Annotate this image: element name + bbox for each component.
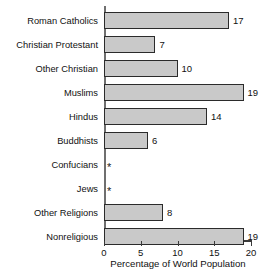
category-label: Roman Catholics [0,16,98,26]
bar-hindus [104,108,207,125]
bar-nonreligious [104,228,244,245]
x-tick-label: 10 [172,247,183,258]
bar-value-label: 7 [160,40,165,50]
x-tick-label: 15 [209,247,220,258]
x-tick [141,241,142,246]
x-tick [251,241,252,246]
category-label: Buddhists [0,136,98,146]
x-tick [178,241,179,246]
x-tick [104,241,105,246]
x-axis-title: Percentage of World Population [104,258,252,269]
category-label: Christian Protestant [0,40,98,50]
plot-area: * * 17 7 10 19 14 6 8 19 0 5 10 15 20 [104,6,251,240]
bar-value-label: 17 [233,16,244,26]
bar-value-label: 6 [152,136,157,146]
category-label: Nonreligious [0,232,98,242]
bar-value-label: 19 [248,88,259,98]
bar-other-christian [104,60,178,77]
category-label: Confucians [0,160,98,170]
category-label: Other Christian [0,64,98,74]
category-label: Hindus [0,112,98,122]
bar-roman-catholics [104,12,229,29]
bar-other-religions [104,204,163,221]
category-label: Jews [0,184,98,194]
bar-christian-protestant [104,36,155,53]
asterisk-marker-jews: * [107,186,111,196]
bar-value-label: 19 [248,232,259,242]
bar-value-label: 14 [211,112,222,122]
x-tick [214,241,215,246]
x-tick-label: 0 [101,247,106,258]
bar-muslims [104,84,244,101]
x-tick-label: 5 [138,247,143,258]
category-label: Other Religions [0,208,98,218]
bar-value-label: 8 [167,208,172,218]
category-label: Muslims [0,88,98,98]
bar-chart: Roman Catholics Christian Protestant Oth… [0,0,272,278]
asterisk-marker-confucians: * [107,162,111,172]
bar-value-label: 10 [182,64,193,74]
x-tick-label: 20 [246,247,257,258]
bar-buddhists [104,132,148,149]
